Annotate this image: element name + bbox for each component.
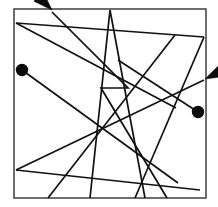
endpoint-dot-right (192, 106, 204, 118)
line-tangle-drawing (0, 0, 218, 207)
endpoint-dot-left (16, 64, 28, 76)
arrowhead-up-right (205, 66, 218, 79)
figure-canvas: Tangled line segment figure Square frame… (0, 0, 218, 207)
